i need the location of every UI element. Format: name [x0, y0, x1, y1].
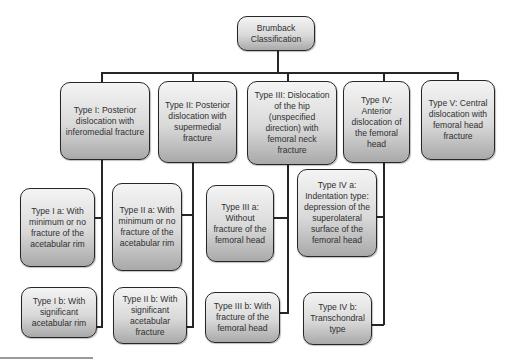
type2-trunk [192, 163, 194, 328]
type2b-node: Type II b: With significant acetabular f… [113, 287, 187, 344]
type2a-connector [181, 214, 193, 216]
type2-node: Type II: Posterior dislocation with supe… [158, 81, 237, 163]
type1-node: Type I: Posterior dislocation with infer… [60, 82, 150, 160]
type4-label: Type IV: Anterior dislocation of the fem… [348, 95, 405, 150]
type4-node: Type IV: Anterior dislocation of the fem… [343, 81, 410, 163]
type1-label: Type I: Posterior dislocation with infer… [65, 105, 145, 138]
footnote-rule [0, 357, 93, 359]
type4b-node: Type IV b: Transchondral type [303, 292, 372, 345]
type2a-node: Type II a: With minimum or no fracture o… [112, 183, 182, 271]
type2-label: Type II: Posterior dislocation with supe… [163, 100, 232, 144]
type4-trunk [383, 163, 385, 325]
type2b-connector [186, 326, 193, 328]
root-label: Brumback Classification [242, 23, 310, 45]
type3b-label: Type III b: With fracture of the femoral… [210, 301, 275, 334]
type1a-node: Type I a: With minimum or no fracture of… [20, 188, 95, 267]
type1b-node: Type I b: With significant acetabular ri… [21, 287, 97, 338]
type1a-label: Type I a: With minimum or no fracture of… [25, 206, 90, 250]
type5-label: Type V: Central dislocation with femoral… [426, 98, 490, 142]
type3a-node: Type III a: Without fracture of the femo… [206, 185, 274, 262]
type3-node: Type III: Dislocation of the hip (unspec… [247, 81, 337, 165]
type2a-label: Type II a: With minimum or no fracture o… [117, 205, 177, 249]
type5-node: Type V: Central dislocation with femoral… [421, 80, 495, 160]
type4a-connector [376, 216, 384, 218]
root-node: Brumback Classification [237, 16, 315, 51]
type4b-label: Type IV b: Transchondral type [308, 302, 367, 335]
type1b-label: Type I b: With significant acetabular ri… [26, 296, 92, 329]
type3a-label: Type III a: Without fracture of the femo… [211, 202, 269, 246]
type1-trunk [101, 160, 103, 328]
type3-label: Type III: Dislocation of the hip (unspec… [252, 90, 332, 156]
type3b-connector [279, 312, 288, 314]
type3-trunk [287, 165, 289, 314]
type4a-label: Type IV a: Indentation type: depression … [302, 180, 372, 246]
type1a-connector [94, 217, 102, 219]
type4b-connector [371, 324, 384, 326]
type1-stub [101, 72, 103, 82]
type3b-node: Type III b: With fracture of the femoral… [205, 292, 280, 343]
root-connector [277, 50, 279, 73]
level1-bus [101, 72, 458, 74]
type4a-node: Type IV a: Indentation type: depression … [297, 169, 377, 257]
type2b-label: Type II b: With significant acetabular f… [118, 294, 182, 338]
type3a-connector [273, 217, 288, 219]
